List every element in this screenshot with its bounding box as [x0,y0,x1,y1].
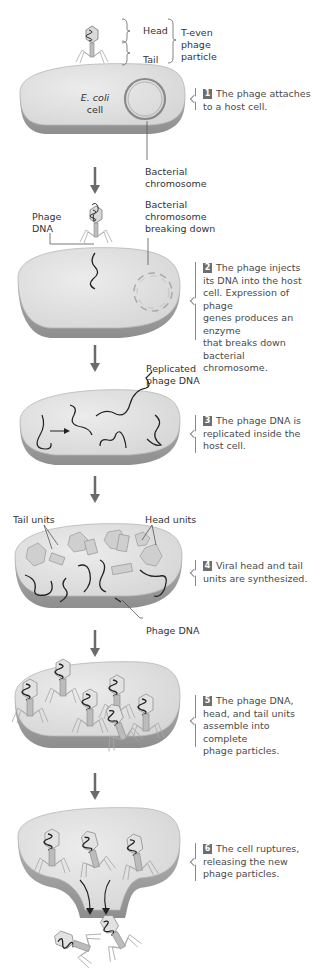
step-badge-5: 5 [203,696,212,706]
label-chromosome-breaking-down: Bacterial chromosome breaking down [145,199,215,235]
arrow-4-5 [90,630,100,657]
step-badge-2: 2 [203,263,212,273]
label-e-coli: E. coli [80,92,110,104]
cell-step-5 [12,659,180,752]
arrow-2-3 [90,345,100,372]
step-2-text: 2The phage injects its DNA into the host… [203,262,316,375]
step-4-text: 4Viral head and tail units are synthesiz… [203,560,307,585]
label-cell: cell [80,104,110,116]
brace-step-1 [195,88,202,110]
phage-lifecycle-diagram [0,0,316,972]
label-phage-dna-2: Phage DNA [32,211,61,235]
brace-step-2 [195,262,202,340]
brace-step-3 [195,415,202,453]
step-6-text: 6The cell ruptures, releasing the new ph… [203,843,299,881]
step-1-text: 1The phage attaches to a host cell. [203,88,311,113]
label-tail-units: Tail units [13,514,55,526]
step-badge-6: 6 [203,844,212,854]
brace-step-5 [195,695,202,747]
label-tail: Tail [143,54,158,66]
step-3-text: 3The phage DNA is replicated inside the … [203,415,301,453]
step-badge-4: 4 [203,561,212,571]
cell-step-1 [20,19,185,160]
label-head: Head [143,25,168,37]
step-badge-3: 3 [203,416,212,426]
cell-step-4 [15,524,182,618]
label-bacterial-chromosome: Bacterial chromosome [145,166,207,190]
arrow-1-2 [90,167,100,194]
arrow-3-4 [90,476,100,503]
label-phage-dna-4: Phage DNA [146,625,199,637]
label-replicated-phage-dna: Replicated phage DNA [146,363,200,387]
step-badge-1: 1 [203,89,212,99]
label-t-even-phage-particle: T-even phage particle [181,27,217,63]
arrow-5-6 [90,773,100,800]
brace-step-6 [195,843,202,881]
brace-step-4 [195,560,202,586]
step-5-text: 5The phage DNA, head, and tail units ass… [203,695,316,758]
label-head-units: Head units [145,514,196,526]
cell-step-6 [18,808,180,969]
